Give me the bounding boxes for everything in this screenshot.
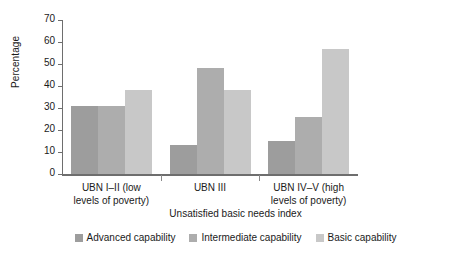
x-axis-group-label: UBN IV–V (high levels of poverty) <box>239 182 379 207</box>
bar <box>197 68 224 174</box>
y-tick-mark <box>58 42 62 43</box>
legend-swatch-icon <box>189 234 197 242</box>
y-tick-label: 20 <box>31 123 55 134</box>
legend-swatch-icon <box>75 234 83 242</box>
y-tick-mark <box>58 152 62 153</box>
legend-label: Basic capability <box>328 232 397 243</box>
y-tick-mark <box>58 130 62 131</box>
x-tick-mark <box>161 175 162 181</box>
x-axis-line <box>62 174 358 176</box>
legend-label: Advanced capability <box>87 232 176 243</box>
y-tick-mark <box>58 108 62 109</box>
legend-item: Advanced capability <box>75 232 176 243</box>
bar-chart: Percentage 010203040506070 UBN I–II (low… <box>0 0 471 257</box>
legend: Advanced capabilityIntermediate capabili… <box>0 232 471 243</box>
y-tick-label: 50 <box>31 57 55 68</box>
y-tick-label: 60 <box>31 35 55 46</box>
bar <box>224 90 251 174</box>
y-tick-label: 30 <box>31 101 55 112</box>
y-tick-label: 10 <box>31 145 55 156</box>
legend-item: Basic capability <box>316 232 397 243</box>
y-tick-label: 0 <box>31 167 55 178</box>
x-tick-mark <box>259 175 260 181</box>
legend-swatch-icon <box>316 234 324 242</box>
y-tick-mark <box>58 174 62 175</box>
bar <box>170 145 197 174</box>
bar <box>295 117 322 174</box>
x-axis-title: Unsatisfied basic needs index <box>0 208 471 219</box>
y-tick-mark <box>58 86 62 87</box>
bar <box>268 141 295 174</box>
y-tick-label: 40 <box>31 79 55 90</box>
bar <box>71 106 98 174</box>
bar <box>125 90 152 174</box>
y-tick-mark <box>58 64 62 65</box>
legend-item: Intermediate capability <box>189 232 301 243</box>
legend-label: Intermediate capability <box>201 232 301 243</box>
y-axis-line <box>62 20 63 175</box>
bar <box>322 49 349 174</box>
bar <box>98 106 125 174</box>
y-axis-title: Percentage <box>10 0 21 88</box>
y-tick-mark <box>58 20 62 21</box>
y-tick-label: 70 <box>31 13 55 24</box>
